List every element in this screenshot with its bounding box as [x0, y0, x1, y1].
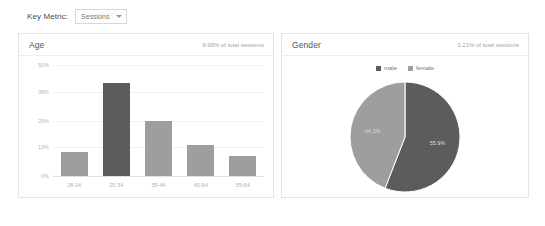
- gender-panel-title: Gender: [292, 40, 321, 50]
- x-axis-tick-label: 25-34: [109, 182, 123, 188]
- panels-container: Age 9.98% of total sessions 0%13%25%38%5…: [0, 33, 545, 226]
- gender-panel-header: Gender 3.21% of total sessions: [282, 34, 528, 56]
- age-panel-title: Age: [29, 40, 44, 50]
- gender-legend: malefemale: [282, 65, 528, 71]
- bar-18-24[interactable]: [61, 152, 88, 176]
- legend-swatch-male: [376, 66, 381, 71]
- y-axis-tick-label: 13%: [38, 144, 49, 150]
- chevron-down-icon: [116, 15, 122, 18]
- age-bar-chart: 0%13%25%38%50% 18-2425-3435-4445-5455-64: [19, 56, 273, 198]
- age-panel-header: Age 9.98% of total sessions: [19, 34, 273, 56]
- y-axis-tick-label: 0%: [41, 173, 49, 179]
- legend-item-male[interactable]: male: [376, 65, 397, 71]
- bar-25-34[interactable]: [103, 83, 130, 176]
- gender-pie-area: 55.9%44.1%: [282, 78, 528, 196]
- x-axis-tick-label: 55-64: [236, 182, 250, 188]
- age-panel: Age 9.98% of total sessions 0%13%25%38%5…: [18, 33, 274, 198]
- x-axis-tick-label: 35-44: [151, 182, 165, 188]
- gridline: 0%: [53, 176, 264, 177]
- legend-label-female: female: [416, 65, 434, 71]
- pie-slice-label-female: 44.1%: [365, 128, 381, 134]
- y-axis-tick-label: 50%: [38, 62, 49, 68]
- legend-label-male: male: [384, 65, 397, 71]
- age-bars: 18-2425-3435-4445-5455-64: [53, 65, 264, 176]
- x-axis-tick-label: 45-54: [194, 182, 208, 188]
- key-metric-dropdown[interactable]: Sessions: [75, 9, 126, 24]
- age-panel-subtitle: 9.98% of total sessions: [202, 42, 264, 48]
- key-metric-label: Key Metric:: [27, 12, 68, 21]
- bar-slot: 35-44: [137, 65, 179, 176]
- key-metric-toolbar: Key Metric: Sessions: [0, 0, 545, 33]
- age-panel-body: 0%13%25%38%50% 18-2425-3435-4445-5455-64: [19, 56, 273, 198]
- bar-slot: 18-24: [53, 65, 95, 176]
- y-axis-tick-label: 38%: [38, 89, 49, 95]
- bar-slot: 55-64: [222, 65, 264, 176]
- bar-45-54[interactable]: [187, 145, 214, 176]
- pie-slice-label-male: 55.9%: [430, 140, 446, 146]
- bar-35-44[interactable]: [145, 121, 172, 177]
- legend-swatch-female: [408, 66, 413, 71]
- bar-55-64[interactable]: [229, 156, 256, 176]
- bar-slot: 25-34: [95, 65, 137, 176]
- x-axis-tick-label: 18-24: [67, 182, 81, 188]
- key-metric-selected-value: Sessions: [81, 13, 109, 20]
- y-axis-tick-label: 25%: [38, 118, 49, 124]
- gender-panel-subtitle: 3.21% of total sessions: [457, 42, 519, 48]
- legend-item-female[interactable]: female: [408, 65, 434, 71]
- gender-panel-body: malefemale 55.9%44.1%: [282, 56, 528, 198]
- gender-pie-chart: malefemale 55.9%44.1%: [282, 56, 528, 198]
- gender-panel: Gender 3.21% of total sessions malefemal…: [281, 33, 529, 198]
- pie-svg: 55.9%44.1%: [349, 81, 461, 193]
- age-plot-area: 0%13%25%38%50% 18-2425-3435-4445-5455-64: [53, 65, 264, 176]
- bar-slot: 45-54: [180, 65, 222, 176]
